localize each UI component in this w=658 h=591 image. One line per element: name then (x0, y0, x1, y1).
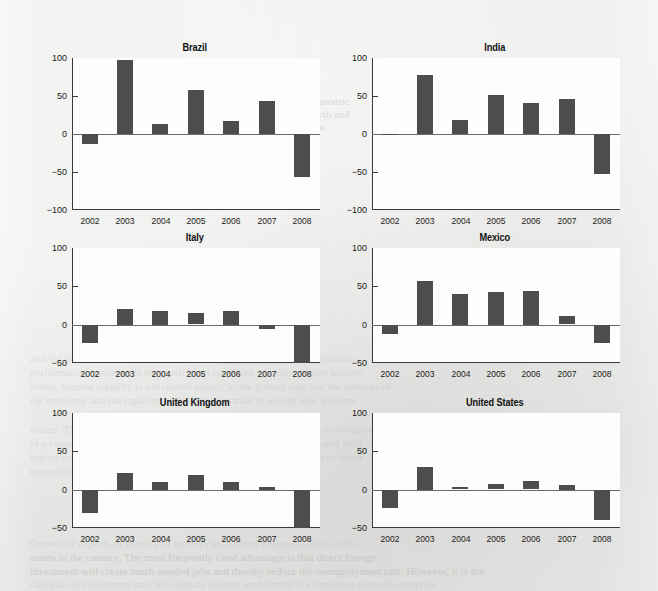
plot-area-united-kingdom: 100500−50 (72, 413, 320, 528)
y-tick-label: −50 (52, 523, 72, 533)
x-tick-label: 2006 (222, 369, 241, 379)
bar (559, 485, 575, 490)
x-tick-label: 2006 (522, 216, 541, 226)
bar (294, 134, 310, 177)
bar (523, 481, 539, 489)
bar (559, 99, 575, 134)
chart-panel-mexico: Mexico100500−502002200320042005200620072… (340, 232, 630, 389)
bar (488, 484, 504, 489)
y-tick-label: −50 (52, 358, 72, 368)
y-tick-label: −50 (52, 167, 72, 177)
y-tick-mark (372, 96, 378, 97)
plot-area-brazil: 100500−50−100 (72, 58, 320, 210)
bar (382, 134, 398, 135)
y-axis-spine (72, 248, 73, 363)
bar (82, 134, 98, 144)
bar (417, 75, 433, 134)
x-tick-label: 2003 (416, 216, 435, 226)
y-axis-spine (372, 413, 373, 528)
x-tick-label: 2004 (452, 534, 471, 544)
x-tick-label: 2007 (558, 534, 577, 544)
y-tick-label: 0 (62, 129, 72, 139)
bar (488, 292, 504, 325)
plot-area-india: 100500−50−100 (372, 58, 620, 210)
bar (452, 294, 468, 325)
x-tick-label: 2003 (416, 534, 435, 544)
x-tick-label: 2006 (522, 534, 541, 544)
x-tick-label: 2003 (116, 534, 135, 544)
x-tick-label: 2002 (81, 534, 100, 544)
x-tick-label: 2002 (81, 369, 100, 379)
bar (259, 101, 275, 134)
x-tick-label: 2007 (558, 216, 577, 226)
bar (594, 490, 610, 520)
y-tick-label: −50 (352, 358, 372, 368)
y-tick-label: 50 (57, 446, 72, 456)
y-tick-label: 100 (52, 408, 72, 418)
plot-area-italy: 100500−50 (72, 248, 320, 363)
y-tick-label: 0 (362, 320, 372, 330)
y-tick-label: 0 (62, 485, 72, 495)
bar (594, 325, 610, 343)
chart-panel-united-kingdom: United Kingdom100500−5020022003200420052… (40, 397, 330, 554)
x-tick-label: 2006 (522, 369, 541, 379)
x-axis-spine (372, 362, 620, 363)
y-tick-label: 100 (352, 243, 372, 253)
x-tick-label: 2005 (187, 216, 206, 226)
bar (382, 325, 398, 334)
y-tick-label: 100 (52, 53, 72, 63)
x-axis-spine (72, 362, 320, 363)
x-tick-label: 2008 (593, 216, 612, 226)
x-axis-spine (372, 209, 620, 210)
bar (488, 95, 504, 134)
bar (152, 482, 168, 490)
chart-title-india: India (351, 42, 609, 53)
y-tick-label: −50 (352, 167, 372, 177)
y-tick-label: 50 (57, 281, 72, 291)
x-tick-label: 2008 (593, 534, 612, 544)
x-tick-label: 2004 (152, 369, 171, 379)
x-tick-label: 2002 (81, 216, 100, 226)
y-axis-spine (72, 413, 73, 528)
bar (523, 103, 539, 134)
x-tick-label: 2005 (487, 534, 506, 544)
bar (417, 281, 433, 325)
y-tick-label: −100 (47, 205, 72, 215)
x-axis-spine (72, 209, 320, 210)
plot-area-united-states: 100500−50 (372, 413, 620, 528)
zero-baseline (372, 325, 620, 326)
chart-panel-brazil: Brazil100500−50−100200220032004200520062… (40, 42, 330, 236)
x-tick-label: 2004 (452, 369, 471, 379)
x-tick-label: 2004 (152, 534, 171, 544)
x-tick-label: 2006 (222, 534, 241, 544)
bar (117, 60, 133, 134)
zero-baseline (72, 490, 320, 491)
x-tick-label: 2007 (258, 216, 277, 226)
x-tick-label: 2003 (116, 369, 135, 379)
bar (294, 325, 310, 363)
y-tick-mark (72, 286, 78, 287)
bar (223, 121, 239, 134)
y-tick-mark (72, 451, 78, 452)
chart-title-brazil: Brazil (51, 42, 309, 53)
y-tick-label: 50 (357, 91, 372, 101)
x-tick-label: 2006 (222, 216, 241, 226)
zero-baseline (72, 134, 320, 135)
bar (259, 487, 275, 490)
plot-area-mexico: 100500−50 (372, 248, 620, 363)
chart-title-united-states: United States (351, 397, 609, 408)
chart-title-united-kingdom: United Kingdom (51, 397, 309, 408)
x-tick-label: 2008 (293, 216, 312, 226)
bar (223, 482, 239, 490)
bar (188, 475, 204, 490)
bar (152, 311, 168, 325)
bar (117, 309, 133, 325)
x-tick-label: 2002 (381, 534, 400, 544)
zero-baseline (372, 134, 620, 135)
x-tick-label: 2007 (558, 369, 577, 379)
x-tick-label: 2003 (416, 369, 435, 379)
bar (259, 325, 275, 329)
x-tick-label: 2007 (258, 534, 277, 544)
y-tick-label: 0 (362, 485, 372, 495)
x-tick-label: 2004 (152, 216, 171, 226)
